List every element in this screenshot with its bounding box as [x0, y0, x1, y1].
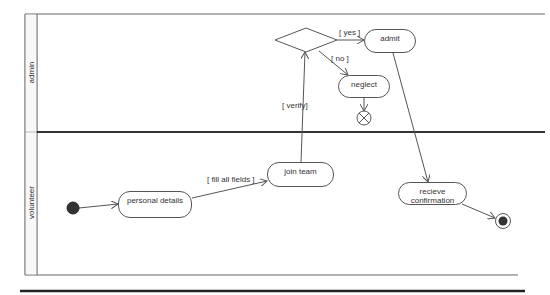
guard-fill-all-fields: [ fill all fields ]: [207, 175, 255, 184]
edge-admit-to-receive-confirmation: [393, 53, 428, 182]
action-label: recieve confirmation: [411, 187, 455, 205]
initial-node[interactable]: [67, 202, 79, 214]
activity-diagram-canvas: [0, 0, 550, 295]
action-label: personal details: [127, 196, 183, 205]
swimlane-pool: [20, 14, 545, 291]
action-label: admit: [380, 34, 400, 43]
edge-receive-confirmation-to-final: [462, 204, 495, 218]
action-node-neglect[interactable]: neglect: [338, 75, 390, 98]
action-node-admit[interactable]: admit: [364, 29, 416, 53]
action-node-join-team[interactable]: join team: [267, 162, 334, 187]
edge-initial-to-personal-details: [79, 204, 118, 208]
lane-label-volunteer: volunteer: [27, 178, 36, 228]
guard-no: [ no ]: [331, 54, 349, 63]
lane-label-admin: admin: [27, 53, 36, 93]
action-label: neglect: [351, 80, 377, 89]
decision-node[interactable]: [275, 28, 337, 52]
activity-final-node[interactable]: [496, 214, 511, 229]
action-label: join team: [284, 167, 316, 176]
action-node-personal-details[interactable]: personal details: [118, 191, 192, 218]
guard-yes: [ yes ]: [339, 28, 360, 37]
flow-final-node[interactable]: [357, 111, 371, 125]
action-node-receive-confirmation[interactable]: recieve confirmation: [398, 182, 467, 205]
guard-verify: [ verify]: [282, 101, 308, 110]
